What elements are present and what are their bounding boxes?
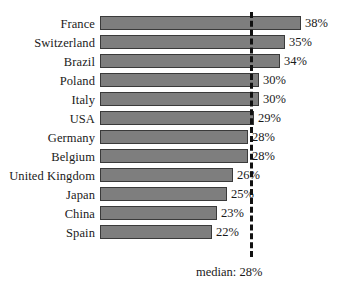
chart-row: Italy 30% <box>0 90 352 109</box>
chart-row: Brazil 34% <box>0 52 352 71</box>
bar <box>100 130 248 144</box>
chart-row: China 23% <box>0 204 352 223</box>
bar-track: 23% <box>100 204 352 223</box>
chart-row: France 38% <box>0 14 352 33</box>
bar-track: 26% <box>100 166 352 185</box>
chart-row: Japan 25% <box>0 185 352 204</box>
bar-value-label: 35% <box>289 34 312 50</box>
category-label: Switzerland <box>0 36 100 50</box>
category-label: France <box>0 17 100 31</box>
category-label: United Kingdom <box>0 169 100 183</box>
bar-value-label: 30% <box>263 72 286 88</box>
category-label: Belgium <box>0 150 100 164</box>
bar-track: 30% <box>100 71 352 90</box>
bar-track: 38% <box>100 14 352 33</box>
category-label: Spain <box>0 226 100 240</box>
bar-track: 30% <box>100 90 352 109</box>
category-label: Germany <box>0 131 100 145</box>
bar <box>100 168 233 182</box>
bar <box>100 54 280 68</box>
bar-value-label: 23% <box>221 205 244 221</box>
median-caption: median: 28% <box>196 265 262 279</box>
bar-track: 28% <box>100 128 352 147</box>
category-label: Poland <box>0 74 100 88</box>
bar-track: 25% <box>100 185 352 204</box>
bar-track: 22% <box>100 223 352 242</box>
category-label: China <box>0 207 100 221</box>
category-label: Italy <box>0 93 100 107</box>
chart-row: United Kingdom 26% <box>0 166 352 185</box>
bar-value-label: 22% <box>216 224 239 240</box>
chart-row: Spain 22% <box>0 223 352 242</box>
category-label: Brazil <box>0 55 100 69</box>
bar-track: 34% <box>100 52 352 71</box>
bar-value-label: 28% <box>252 129 275 145</box>
chart-row: USA 29% <box>0 109 352 128</box>
bar <box>100 111 254 125</box>
bar-value-label: 26% <box>237 167 260 183</box>
category-label: Japan <box>0 188 100 202</box>
bar <box>100 16 301 30</box>
chart-row: Switzerland 35% <box>0 33 352 52</box>
bar <box>100 149 248 163</box>
bar-value-label: 30% <box>263 91 286 107</box>
category-label: USA <box>0 112 100 126</box>
chart-rows: France 38% Switzerland 35% Brazil 34% Po… <box>0 14 352 242</box>
bar-track: 29% <box>100 109 352 128</box>
bar <box>100 187 227 201</box>
bar-value-label: 34% <box>284 53 307 69</box>
bar-chart: France 38% Switzerland 35% Brazil 34% Po… <box>0 0 352 290</box>
bar-value-label: 29% <box>258 110 281 126</box>
chart-row: Poland 30% <box>0 71 352 90</box>
median-line <box>250 12 253 257</box>
bar-track: 35% <box>100 33 352 52</box>
bar-value-label: 28% <box>252 148 275 164</box>
chart-row: Belgium 28% <box>0 147 352 166</box>
bar-track: 28% <box>100 147 352 166</box>
chart-row: Germany 28% <box>0 128 352 147</box>
bar <box>100 92 259 106</box>
bar <box>100 73 259 87</box>
bar <box>100 206 217 220</box>
bar <box>100 35 285 49</box>
bar <box>100 225 212 239</box>
bar-value-label: 38% <box>305 15 328 31</box>
